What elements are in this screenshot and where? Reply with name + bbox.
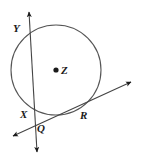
label-point-q: Q — [37, 122, 45, 134]
center-point-dot — [53, 67, 58, 72]
geometry-figure: Z Y X R Q — [0, 0, 141, 162]
label-center-z: Z — [60, 64, 68, 76]
label-point-x: X — [19, 108, 28, 120]
label-point-r: R — [79, 109, 87, 121]
figure-background — [0, 0, 141, 162]
geometry-canvas: Z Y X R Q — [0, 0, 141, 162]
